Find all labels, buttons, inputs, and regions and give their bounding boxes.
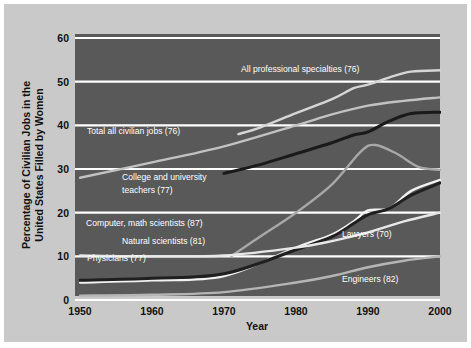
figure-panel: 0102030405060 195019601970198019902000 A… <box>4 4 467 342</box>
x-tick-2000: 2000 <box>428 305 452 317</box>
line-chart-svg: 0102030405060 195019601970198019902000 A… <box>4 4 467 342</box>
x-tick-1970: 1970 <box>212 305 236 317</box>
y-tick-50: 50 <box>57 76 69 88</box>
series-label-2: College and university <box>122 172 207 182</box>
series-label-3: teachers (77) <box>122 185 173 195</box>
x-axis-title: Year <box>246 320 268 332</box>
series-label-4: Computer, math scientists (87) <box>86 218 203 228</box>
series-label-1: Total all civilian jobs (76) <box>87 126 180 136</box>
x-tick-1980: 1980 <box>284 305 308 317</box>
series-label-5: Natural scientists (81) <box>122 236 205 246</box>
x-tick-1960: 1960 <box>140 305 164 317</box>
y-axis-title-line-2: United States Filled by Women <box>33 88 45 241</box>
y-axis-title-line-1: Percentage of Civilian Jobs in the <box>20 81 32 249</box>
y-tick-labels: 0102030405060 <box>57 32 69 306</box>
series-label-6: Physicians (77) <box>87 253 146 263</box>
y-tick-30: 30 <box>57 163 69 175</box>
chart-canvas: 0102030405060 195019601970198019902000 A… <box>4 4 467 342</box>
y-tick-10: 10 <box>57 250 69 262</box>
x-tick-labels: 195019601970198019902000 <box>68 305 452 317</box>
y-axis-title: Percentage of Civilian Jobs in the Unite… <box>20 81 45 249</box>
y-tick-40: 40 <box>57 119 69 131</box>
y-tick-20: 20 <box>57 207 69 219</box>
series-label-0: All professional specialties (76) <box>241 64 360 74</box>
series-label-8: Engineers (82) <box>342 274 399 284</box>
x-tick-1990: 1990 <box>356 305 380 317</box>
x-tick-1950: 1950 <box>68 305 92 317</box>
y-tick-60: 60 <box>57 32 69 44</box>
series-label-7: Lawyers (70) <box>342 229 392 239</box>
